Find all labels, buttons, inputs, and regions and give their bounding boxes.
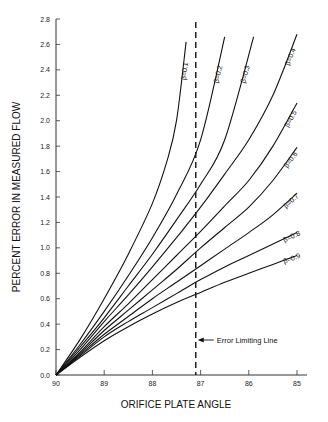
x-axis-label: ORIFICE PLATE ANGLE <box>121 399 232 410</box>
y-tick-label: 1.4 <box>40 194 50 201</box>
x-axis-ticks: 908988878685 <box>52 370 301 387</box>
y-tick-label: 0.2 <box>40 346 50 353</box>
y-tick-label: 2.6 <box>40 41 50 48</box>
beta-curve <box>56 256 297 376</box>
error-limiting-line: Error Limiting Line <box>196 22 278 375</box>
curve-label: β=0.7 <box>282 192 301 210</box>
y-tick-label: 0.8 <box>40 270 50 277</box>
curve-label: β=0.3 <box>239 64 252 83</box>
y-tick-label: 0.6 <box>40 295 50 302</box>
beta-curves: β=0.1β=0.2β=0.3β=0.4β=0.5β=0.6β=0.7β=0.8… <box>56 34 302 375</box>
curve-label: β=0.8 <box>282 229 302 244</box>
curve-label: β=0.9 <box>282 252 302 266</box>
y-axis-ticks: 0.00.20.40.60.81.01.21.41.61.82.02.22.42… <box>40 16 60 379</box>
y-tick-label: 0.0 <box>40 372 50 379</box>
y-tick-label: 2.2 <box>40 92 50 99</box>
curve-label: β=0.6 <box>282 150 299 169</box>
error-limiting-line-label: Error Limiting Line <box>217 336 278 345</box>
orifice-error-chart: 0.00.20.40.60.81.01.21.41.61.82.02.22.42… <box>0 0 328 422</box>
x-tick-label: 88 <box>149 380 157 387</box>
beta-curve <box>56 233 297 375</box>
y-tick-label: 1.6 <box>40 168 50 175</box>
y-tick-label: 2.0 <box>40 117 50 124</box>
curve-label: β=0.2 <box>212 65 224 84</box>
curve-label: β=0.1 <box>180 62 190 81</box>
x-tick-label: 89 <box>100 380 108 387</box>
x-tick-label: 87 <box>197 380 205 387</box>
beta-curve <box>56 42 186 375</box>
y-axis-label: PERCENT ERROR IN MEASURED FLOW <box>11 101 22 292</box>
beta-curve <box>56 103 297 375</box>
curve-label: β=0.5 <box>283 109 299 129</box>
arrow-left-icon <box>198 338 204 343</box>
beta-curve <box>56 34 297 375</box>
x-tick-label: 86 <box>245 380 253 387</box>
y-tick-label: 0.4 <box>40 321 50 328</box>
y-tick-label: 2.4 <box>40 66 50 73</box>
x-tick-label: 90 <box>52 380 60 387</box>
y-tick-label: 1.0 <box>40 244 50 251</box>
y-tick-label: 1.2 <box>40 219 50 226</box>
x-tick-label: 85 <box>293 380 301 387</box>
beta-curve <box>56 37 225 375</box>
y-tick-label: 2.8 <box>40 16 50 23</box>
y-tick-label: 1.8 <box>40 143 50 150</box>
curve-label: β=0.4 <box>284 47 298 67</box>
